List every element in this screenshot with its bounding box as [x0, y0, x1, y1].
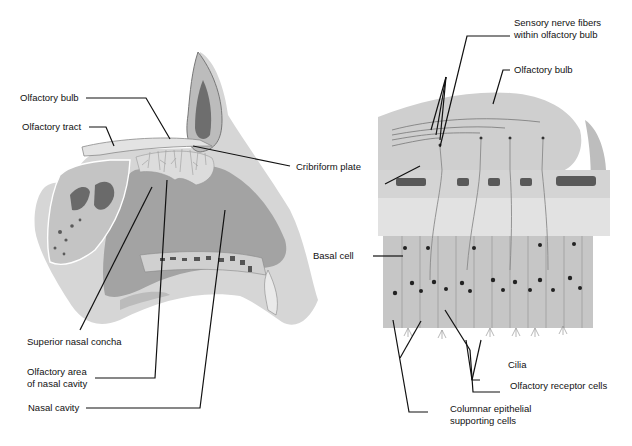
label-sensory-fibers-2: within olfactory bulb	[514, 29, 597, 41]
label-olfactory-bulb-right: Olfactory bulb	[514, 64, 573, 76]
label-superior-nasal-concha: Superior nasal concha	[27, 336, 122, 348]
label-olfactory-receptor-cells: Olfactory receptor cells	[510, 380, 607, 392]
label-cribriform-plate: Cribriform plate	[296, 161, 361, 173]
label-columnar-1: Columnar epithelial	[450, 403, 531, 415]
label-olfactory-bulb-left: Olfactory bulb	[20, 92, 79, 104]
label-olfactory-area-1: Olfactory area	[27, 366, 87, 378]
label-columnar-2: supporting cells	[450, 415, 516, 427]
leader-columnar-a	[393, 320, 428, 412]
olfactory-epithelium-illustration	[378, 92, 610, 339]
epithelium	[383, 236, 593, 328]
label-olfactory-area-2: of nasal cavity	[27, 378, 87, 390]
label-cilia: Cilia	[508, 359, 526, 371]
label-nasal-cavity: Nasal cavity	[28, 402, 79, 414]
lamina-propria	[378, 198, 610, 236]
label-sensory-fibers-1: Sensory nerve fibers	[514, 17, 601, 29]
leader-olfactory-bulb-left	[86, 98, 170, 139]
label-basal-cell: Basal cell	[313, 250, 354, 262]
leader-cilia-b	[472, 340, 481, 380]
label-olfactory-tract: Olfactory tract	[22, 121, 81, 133]
